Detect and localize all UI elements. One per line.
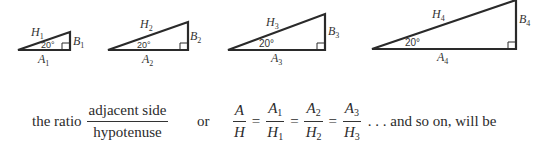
adjacent-over-hypotenuse-fraction: adjacent side hypotenuse xyxy=(87,103,169,140)
lead-text: the ratio xyxy=(32,113,82,130)
fraction-A1-H1: A1 H1 xyxy=(265,101,285,142)
label-H1: H1 xyxy=(30,25,44,41)
angle-label-1: 20° xyxy=(41,40,55,50)
label-A1: A1 xyxy=(37,52,49,68)
label-B3: B3 xyxy=(328,24,339,40)
angle-label-3: 20° xyxy=(259,38,274,49)
label-H2: H2 xyxy=(139,17,153,33)
fraction-A-H: A H xyxy=(232,103,247,140)
fraction-A2-H2: A2 H2 xyxy=(304,101,324,142)
label-A2: A2 xyxy=(141,52,153,68)
label-B4: B4 xyxy=(519,12,530,28)
label-A4: A4 xyxy=(436,50,448,66)
fraction-denominator: hypotenuse xyxy=(91,122,163,140)
label-H3: H3 xyxy=(265,15,279,31)
label-B1: B1 xyxy=(73,34,84,50)
ratio-formula-line: the ratio adjacent side hypotenuse or A … xyxy=(0,96,548,146)
label-H4: H4 xyxy=(431,7,445,23)
angle-label-4: 20° xyxy=(405,37,420,48)
label-A3: A3 xyxy=(270,51,282,67)
ratio-lead: the ratio adjacent side hypotenuse xyxy=(32,96,168,146)
angle-label-2: 20° xyxy=(137,40,151,50)
equal-ratios: A H = A1 H1 = A2 H2 = A3 H3 . . . and so… xyxy=(232,96,497,146)
similar-triangles-figure: H1 B1 A1 20° H2 B2 A2 20° H3 B3 A3 20° H… xyxy=(0,0,548,90)
or-text: or xyxy=(197,96,210,146)
label-B2: B2 xyxy=(190,29,201,45)
fraction-A3-H3: A3 H3 xyxy=(342,101,362,142)
triangle-4 xyxy=(372,0,516,49)
triangle-3 xyxy=(228,14,325,50)
fraction-numerator: adjacent side xyxy=(87,103,169,122)
tail-text: . . . and so on, will be xyxy=(368,113,497,130)
